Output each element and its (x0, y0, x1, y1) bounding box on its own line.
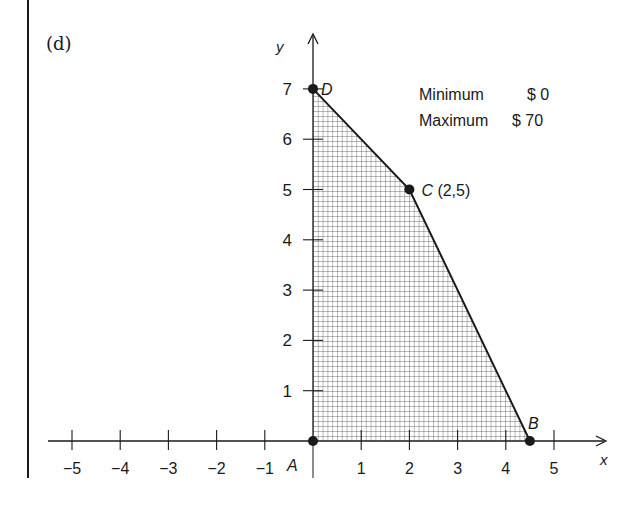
y-tick-label: 4 (283, 231, 292, 250)
minimum-label: Minimum (419, 86, 484, 103)
y-tick-label: 2 (283, 331, 292, 350)
y-tick-label: 5 (283, 181, 292, 200)
x-tick-label: −5 (63, 460, 81, 477)
objective-legend: Minimum $ 0 Maximum $ 70 (419, 86, 549, 129)
minimum-value: $ 0 (527, 86, 549, 103)
x-tick-label: 3 (453, 460, 462, 477)
y-tick-label: 3 (283, 281, 292, 300)
y-tick-label: 7 (283, 80, 292, 99)
vertex-a-dot (308, 436, 318, 446)
vertex-c-dot (404, 185, 414, 195)
maximum-value: $ 70 (512, 112, 543, 129)
linear-programming-graph: (d) −5−4−3−2−112345 1234567 x y ABC(2,5)… (0, 0, 640, 510)
y-tick-label: 6 (283, 130, 292, 149)
x-tick-label: 4 (501, 460, 510, 477)
x-axis (48, 436, 606, 478)
x-tick-label: −3 (159, 460, 177, 477)
panel-label: (d) (46, 33, 72, 54)
x-tick-label: 1 (357, 460, 366, 477)
x-tick-label: −4 (111, 460, 129, 477)
x-axis-label: x (599, 451, 608, 468)
vertex-b-dot (525, 436, 535, 446)
x-tick-label: −1 (256, 460, 274, 477)
vertex-b-label: B (528, 415, 539, 432)
vertex-c-coords: (2,5) (437, 182, 470, 199)
vertex-d-dot (308, 84, 318, 94)
x-tick-label: 2 (405, 460, 414, 477)
feasible-region (313, 89, 530, 441)
x-tick-label: −2 (207, 460, 225, 477)
maximum-label: Maximum (419, 112, 488, 129)
vertex-d-label: D (321, 81, 333, 98)
vertex-a-label: A (286, 457, 298, 474)
y-axis-label: y (275, 38, 285, 55)
x-tick-label: 5 (550, 460, 559, 477)
y-tick-label: 1 (283, 382, 292, 401)
vertex-c-label: C (421, 182, 433, 199)
